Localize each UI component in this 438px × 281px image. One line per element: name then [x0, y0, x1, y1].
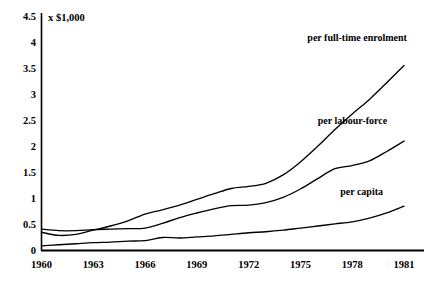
chart-container: 00.511.522.533.544.5 1960196319661969197…: [0, 0, 438, 281]
y-tick-label: 0.5: [23, 219, 36, 230]
y-tick-label: 4.5: [23, 11, 36, 22]
line-chart: 00.511.522.533.544.5 1960196319661969197…: [0, 0, 438, 281]
y-tick-label: 3: [31, 89, 36, 100]
y-tick-label: 2.5: [23, 115, 36, 126]
x-tick-label: 1975: [290, 259, 311, 270]
y-tick-label: 2: [31, 141, 36, 152]
series-label: per full-time enrolment: [307, 32, 407, 43]
y-tick-label: 0: [31, 245, 36, 256]
series-label: per capita: [340, 186, 383, 197]
y-tick-label: 4: [31, 37, 37, 48]
x-tick-label: 1981: [394, 259, 415, 270]
x-tick-label: 1969: [186, 259, 207, 270]
x-tick-label: 1972: [238, 259, 259, 270]
y-tick-label: 1: [31, 193, 36, 204]
x-tick-label: 1966: [135, 259, 156, 270]
series-label: per labour-force: [318, 115, 388, 126]
y-tick-label: 3.5: [23, 63, 36, 74]
x-tick-label: 1978: [342, 259, 363, 270]
y-tick-label: 1.5: [23, 167, 36, 178]
x-tick-label: 1960: [31, 259, 52, 270]
x-tick-label: 1963: [83, 259, 104, 270]
unit-label: x $1,000: [48, 12, 85, 23]
